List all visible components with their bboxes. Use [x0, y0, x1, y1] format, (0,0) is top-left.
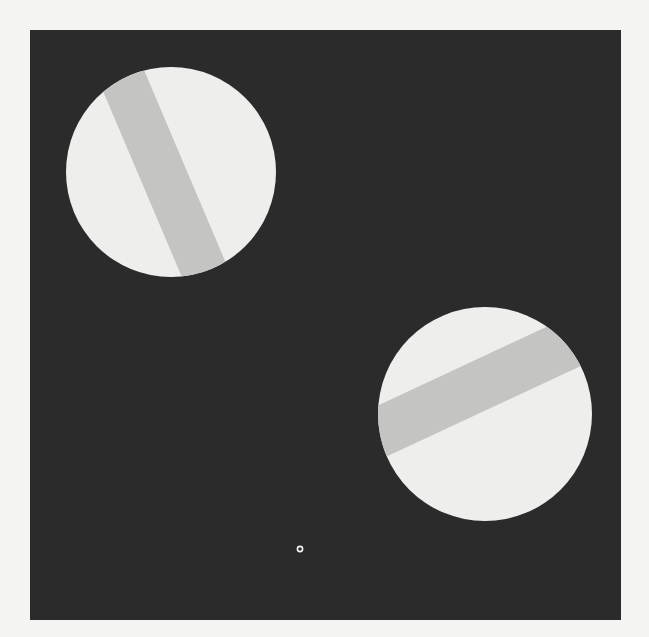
- stimulus-figure: [0, 0, 649, 637]
